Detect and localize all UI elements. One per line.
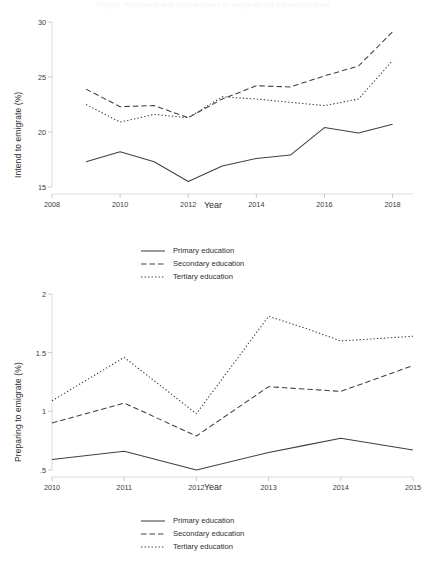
legend-item-label: Primary education bbox=[173, 516, 234, 525]
legend-line-swatch-solid bbox=[140, 246, 166, 256]
y-tick-label: 1 bbox=[18, 407, 46, 416]
series-line-solid bbox=[86, 124, 393, 181]
y-tick-label: 2 bbox=[18, 290, 46, 299]
y-tick-label: 20 bbox=[18, 128, 46, 137]
x-axis-title-bottom: Year bbox=[0, 482, 426, 492]
chart-panel-preparing-to-emigrate: Preparing to emigrate (%) .511.522010201… bbox=[0, 290, 426, 567]
series-line-dashed bbox=[52, 366, 413, 436]
legend-item[interactable]: Secondary education bbox=[140, 527, 244, 540]
legend-item[interactable]: Tertiary education bbox=[140, 540, 244, 553]
chart-panel-intend-to-emigrate: Intend to emigrate (%) 15202530200820102… bbox=[0, 0, 426, 290]
series-line-dashed bbox=[86, 32, 393, 118]
legend-item[interactable]: Primary education bbox=[140, 244, 244, 257]
legend-item-label: Secondary education bbox=[173, 259, 244, 268]
series-line-dotted bbox=[52, 316, 413, 413]
plot-area-intend-to-emigrate bbox=[0, 0, 426, 215]
x-axis-title-top: Year bbox=[0, 200, 426, 210]
legend-item-label: Tertiary education bbox=[173, 272, 233, 281]
legend-line-swatch-dashed bbox=[140, 259, 166, 269]
y-tick-label: .5 bbox=[18, 466, 46, 475]
legend-top: Primary educationSecondary educationTert… bbox=[140, 244, 244, 283]
legend-item-label: Tertiary education bbox=[173, 542, 233, 551]
legend-item[interactable]: Tertiary education bbox=[140, 270, 244, 283]
legend-line-swatch-solid bbox=[140, 516, 166, 526]
y-tick-label: 1.5 bbox=[18, 349, 46, 358]
legend-item-label: Primary education bbox=[173, 246, 234, 255]
plot-area-preparing-to-emigrate bbox=[0, 290, 426, 490]
series-line-solid bbox=[52, 438, 413, 470]
legend-line-swatch-dashed bbox=[140, 529, 166, 539]
figure-canvas: Figure: Intentions and preparations to e… bbox=[0, 0, 426, 567]
y-tick-label: 30 bbox=[18, 18, 46, 27]
y-tick-label: 15 bbox=[18, 183, 46, 192]
legend-item[interactable]: Secondary education bbox=[140, 257, 244, 270]
legend-item[interactable]: Primary education bbox=[140, 514, 244, 527]
legend-item-label: Secondary education bbox=[173, 529, 244, 538]
legend-bottom: Primary educationSecondary educationTert… bbox=[140, 514, 244, 553]
legend-line-swatch-dotted bbox=[140, 542, 166, 552]
y-tick-label: 25 bbox=[18, 73, 46, 82]
legend-line-swatch-dotted bbox=[140, 272, 166, 282]
